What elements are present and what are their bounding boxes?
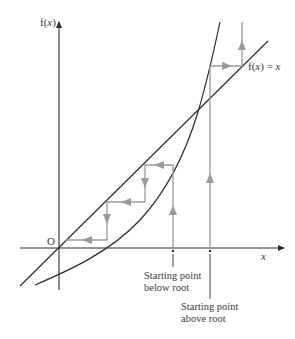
arrow-left-icon xyxy=(82,236,92,244)
cobweb-above-root xyxy=(210,22,242,248)
arrow-up-icon xyxy=(169,205,177,215)
arrow-down-icon xyxy=(103,214,111,224)
start-above-label-line1: Starting point xyxy=(181,301,239,312)
origin-label: O xyxy=(47,235,55,247)
arrow-left-icon xyxy=(154,161,164,169)
start-below-point xyxy=(172,250,174,252)
identity-line xyxy=(20,41,268,286)
start-below-label-line1: Starting point xyxy=(144,270,202,281)
start-above-label-line2: above root xyxy=(181,313,226,324)
y-axis-label: f(x) xyxy=(40,16,56,29)
arrow-down-icon xyxy=(141,178,149,188)
cobweb-below-root xyxy=(66,165,173,248)
identity-line-label: f(x) = x xyxy=(248,60,281,73)
cobweb-diagram: f(x) x O f(x) = x Starting point below r… xyxy=(0,0,295,339)
arrow-left-icon xyxy=(121,198,131,206)
arrow-up-icon xyxy=(206,173,214,183)
start-below-label-line2: below root xyxy=(144,282,189,293)
start-above-point xyxy=(209,250,211,252)
cobweb-below-arrows xyxy=(82,161,177,244)
arrow-right-icon xyxy=(222,62,232,70)
cobweb-above-arrows xyxy=(206,40,246,183)
x-axis-label: x xyxy=(260,250,266,262)
function-curve xyxy=(35,22,220,285)
arrow-up-icon xyxy=(238,40,246,50)
